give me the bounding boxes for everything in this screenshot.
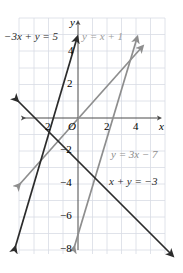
axis-lines xyxy=(24,22,160,250)
y-axis-label: y xyxy=(70,17,75,28)
y-tick-label-neg6: −6 xyxy=(60,210,72,221)
y-tick-label-neg2: −2 xyxy=(60,144,72,155)
equation-label-line3: y = 3x − 7 xyxy=(111,149,158,160)
equation-label-line2: y = x + 1 xyxy=(82,31,123,42)
x-tick-label-2: 2 xyxy=(104,121,110,132)
x-tick-label-neg2: 2 xyxy=(45,121,51,132)
line-y-eq-3x-minus-7 xyxy=(74,38,137,248)
graph-figure: −3x + y = 5 y = x + 1 y = 3x − 7 x + y =… xyxy=(0,0,183,273)
grid-lines xyxy=(19,18,165,254)
y-tick-label-4: 4 xyxy=(68,45,74,56)
y-tick-label-neg4: −4 xyxy=(60,177,72,188)
origin-label: O xyxy=(68,121,76,132)
equation-label-line4: x + y = −3 xyxy=(109,176,158,187)
y-tick-label-2: 2 xyxy=(67,78,73,89)
x-axis-label: x xyxy=(159,121,164,132)
x-tick-label-4: 4 xyxy=(133,121,139,132)
y-tick-label-neg8: −8 xyxy=(60,243,72,254)
equation-label-line1: −3x + y = 5 xyxy=(4,31,58,42)
